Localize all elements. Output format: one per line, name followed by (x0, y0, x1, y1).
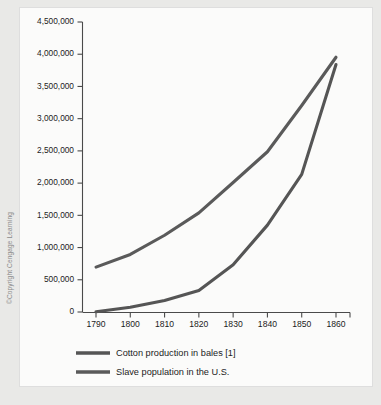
chart-container: 0500,0001,000,0001,500,0002,000,0002,500… (0, 0, 381, 405)
x-tick-label: 1820 (189, 319, 208, 329)
y-axis-group: 0500,0001,000,0001,500,0002,000,0002,500… (37, 16, 82, 316)
x-tick-label: 1850 (292, 319, 311, 329)
x-tick-label: 1810 (155, 319, 174, 329)
series-line (96, 64, 336, 311)
x-tick-label: 1790 (86, 319, 105, 329)
y-tick-label: 1,500,000 (37, 210, 74, 220)
line-chart: 0500,0001,000,0001,500,0002,000,0002,500… (0, 0, 381, 405)
chart-legend: Cotton production in bales [1]Slave popu… (76, 348, 236, 377)
x-tick-group: 17901800181018201830184018501860 (86, 313, 350, 330)
x-axis-group: 17901800181018201830184018501860 (83, 313, 351, 330)
x-tick-label: 1830 (224, 319, 243, 329)
y-tick-label: 1,000,000 (37, 242, 74, 252)
y-tick-label: 2,500,000 (37, 145, 74, 155)
x-tick-label: 1840 (258, 319, 277, 329)
y-tick-label: 3,500,000 (37, 81, 74, 91)
series-line (96, 57, 336, 267)
y-tick-label: 500,000 (44, 274, 74, 284)
legend-label: Cotton production in bales [1] (116, 348, 236, 358)
y-tick-label: 4,000,000 (37, 48, 74, 58)
series-group (96, 57, 336, 312)
legend-label: Slave population in the U.S. (116, 367, 229, 377)
y-tick-label: 2,000,000 (37, 177, 74, 187)
x-tick-label: 1860 (326, 319, 345, 329)
y-tick-label: 4,500,000 (37, 16, 74, 26)
x-tick-label: 1800 (121, 319, 140, 329)
y-tick-label: 3,000,000 (37, 113, 74, 123)
y-tick-group: 0500,0001,000,0001,500,0002,000,0002,500… (37, 16, 82, 316)
y-tick-label: 0 (69, 306, 74, 316)
